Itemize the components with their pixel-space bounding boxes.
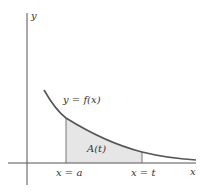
curve-label: y = f(x) [62,94,101,105]
area-label: A(t) [86,143,106,154]
area-under-curve-diagram: y x y = f(x) A(t) x = a x = t [0,0,206,194]
left-bound-label: x = a [56,167,82,178]
right-bound-label: x = t [131,167,156,178]
x-axis-label: x [190,166,196,177]
y-axis-label: y [30,10,37,21]
